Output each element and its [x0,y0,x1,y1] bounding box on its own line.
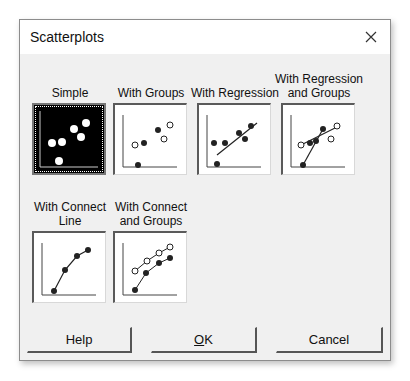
ok-mnemonic: O [194,332,204,347]
option-with-connect-line[interactable]: With Connect Line [32,196,108,306]
option-with-regression-and-groups-label: With Regression and Groups [271,72,367,100]
scatterplots-dialog: Scatterplots Simple With Groups [19,19,391,361]
connect-line-scatter-icon [34,233,104,301]
ok-button[interactable]: OK [151,327,257,353]
option-with-regression-and-groups[interactable]: With Regression and Groups [281,68,357,178]
option-with-groups-label: With Groups [103,86,199,100]
close-button[interactable] [360,26,382,48]
help-button[interactable]: Help [27,327,132,353]
with-groups-thumbnail[interactable] [113,103,187,175]
option-with-regression[interactable]: With Regression [197,68,273,178]
regression-groups-scatter-icon [283,105,353,173]
groups-scatter-icon [115,105,185,173]
with-regression-thumbnail[interactable] [197,103,271,175]
simple-scatter-icon [34,105,104,173]
option-with-regression-label: With Regression [187,86,283,100]
option-simple[interactable]: Simple [32,68,108,178]
title-bar: Scatterplots [20,20,390,54]
option-with-connect-and-groups-label: With Connect and Groups [103,200,199,228]
with-connect-line-thumbnail[interactable] [32,231,106,303]
dialog-title: Scatterplots [30,29,104,45]
simple-thumbnail[interactable] [32,103,106,175]
connect-groups-scatter-icon [115,233,185,301]
option-with-groups[interactable]: With Groups [113,68,189,178]
with-regression-and-groups-thumbnail[interactable] [281,103,355,175]
cancel-button[interactable]: Cancel [276,327,383,353]
with-connect-and-groups-thumbnail[interactable] [113,231,187,303]
close-icon [360,26,382,48]
regression-scatter-icon [199,105,269,173]
option-with-connect-and-groups[interactable]: With Connect and Groups [113,196,189,306]
